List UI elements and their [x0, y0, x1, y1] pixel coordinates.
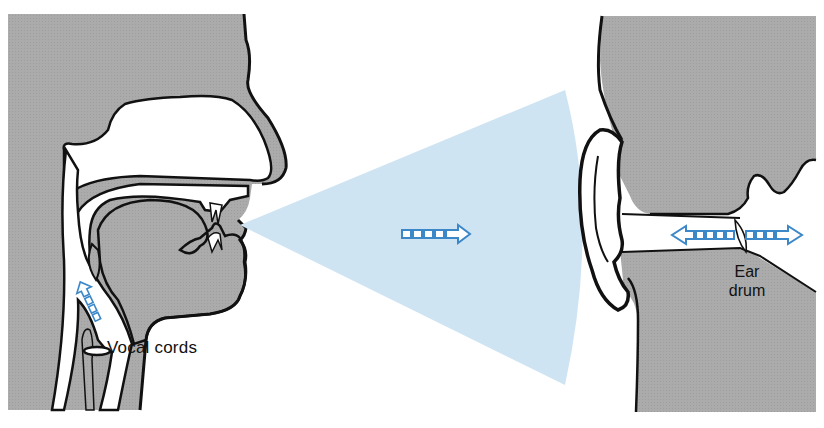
vocal-cords-label: Vocal cords: [107, 338, 197, 358]
listener-head: [580, 16, 816, 412]
sound-diagram: [0, 0, 824, 428]
listener-head-tissue: [600, 16, 816, 214]
ear-drum-label: Ear drum: [722, 262, 772, 300]
ear-drum-label-line1: Ear: [722, 262, 772, 281]
ear-drum-label-line2: drum: [722, 281, 772, 300]
